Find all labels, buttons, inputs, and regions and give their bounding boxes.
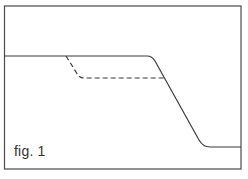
solid-curve: [4, 56, 241, 147]
figure-caption: fig. 1: [14, 143, 46, 159]
dashed-curve: [66, 56, 165, 78]
